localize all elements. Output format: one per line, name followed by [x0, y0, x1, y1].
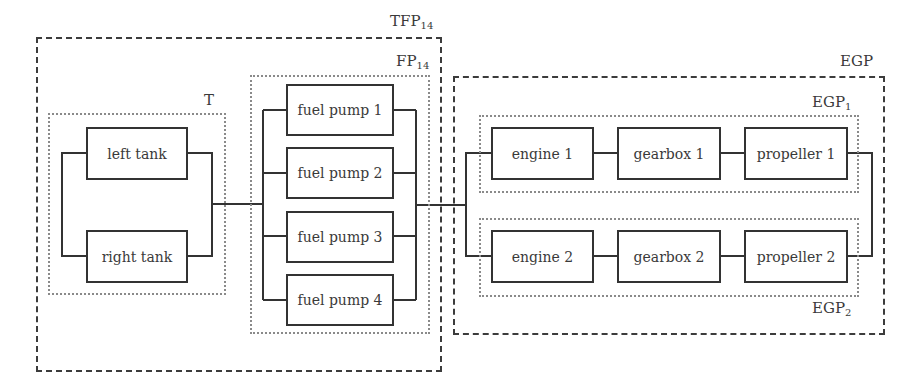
block-left-tank: left tank [86, 127, 188, 180]
group-label-egp1: EGP1 [812, 95, 851, 112]
group-label-tfp14: TFP14 [390, 14, 433, 31]
block-engine-1: engine 1 [491, 127, 594, 180]
block-gearbox-1: gearbox 1 [617, 127, 721, 180]
group-label-egp2: EGP2 [812, 301, 851, 318]
block-fuel-pump-3: fuel pump 3 [286, 211, 394, 263]
block-engine-2: engine 2 [491, 230, 594, 283]
block-fuel-pump-2: fuel pump 2 [286, 147, 394, 199]
block-propeller-2: propeller 2 [744, 230, 848, 283]
block-fuel-pump-1: fuel pump 1 [286, 84, 394, 136]
block-right-tank: right tank [86, 230, 188, 283]
group-label-t: T [204, 93, 214, 108]
block-gearbox-2: gearbox 2 [617, 230, 721, 283]
group-label-fp14: FP14 [396, 54, 429, 71]
reliability-block-diagram: TFP14 T FP14 EGP EGP1 EGP2 left tank rig… [0, 0, 918, 389]
group-label-egp: EGP [840, 54, 873, 69]
block-propeller-1: propeller 1 [744, 127, 848, 180]
block-fuel-pump-4: fuel pump 4 [286, 274, 394, 326]
